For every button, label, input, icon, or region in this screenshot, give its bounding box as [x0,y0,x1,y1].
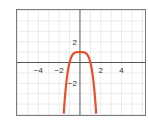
x-tick-label: −2 [55,66,65,75]
y-tick-label: 2 [73,38,78,47]
function-plot: −4−2242−2 [0,0,148,121]
y-tick-label: −2 [68,79,78,88]
x-tick-label: 4 [119,66,124,75]
x-tick-label: −4 [34,66,44,75]
x-tick-label: 2 [99,66,104,75]
axes [17,10,146,116]
